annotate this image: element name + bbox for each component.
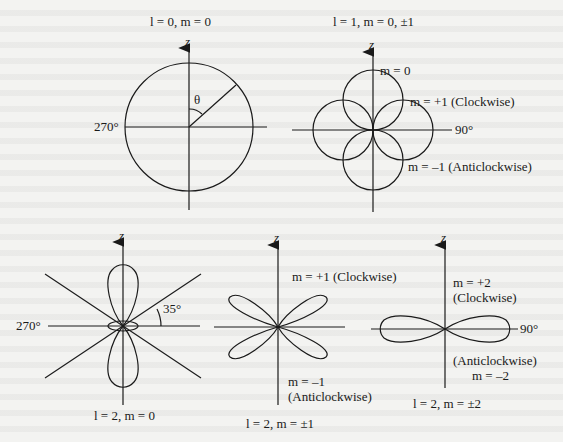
z-axis-label: z: [440, 230, 446, 245]
caption-l1: l = 1, m = 0, ±1: [333, 14, 414, 29]
lobe-lower-left: [229, 327, 278, 359]
diagram-l2-m0: z 35° 270° l = 2, m = 0: [16, 228, 201, 423]
lobe-upper-left: [229, 295, 278, 327]
z-axis-label: z: [184, 34, 190, 49]
angle-90-label: 90°: [520, 321, 538, 336]
caption-l2-m0: l = 2, m = 0: [94, 408, 155, 423]
label-m-minus2: m = –2: [472, 368, 509, 383]
theta-arc: [189, 109, 202, 114]
angle-35-label: 35°: [163, 301, 181, 316]
diagram-l0: l = 0, m = 0 z θ 270°: [94, 14, 267, 210]
diagram-l2-m1: z m = +1 (Clockwise) m = –1 (Anticlockwi…: [214, 230, 397, 431]
z-axis-label: z: [118, 228, 124, 243]
angle-90-label: 90°: [455, 122, 473, 137]
label-anticlockwise: (Anticlockwise): [453, 353, 537, 368]
label-m-minus1: m = –1 (Anticlockwise): [408, 159, 532, 174]
lobe-upper-right: [278, 295, 327, 327]
angle-270-label: 270°: [94, 119, 119, 134]
angle-270-label: 270°: [16, 318, 41, 333]
lobe-lower-right: [278, 327, 327, 359]
label-clockwise: (Clockwise): [453, 290, 517, 305]
polar-diagrams-figure: l = 0, m = 0 z θ 270° l = 1, m = 0, ±1 z…: [0, 0, 563, 442]
label-anticlockwise: (Anticlockwise): [288, 389, 372, 404]
diagram-l1: l = 1, m = 0, ±1 z m = 0 m = +1 (Clockwi…: [292, 14, 532, 212]
label-m0: m = 0: [380, 63, 410, 78]
caption-l2-m2: l = 2, m = ±2: [413, 396, 481, 411]
diagram-l2-m2: z m = +2 (Clockwise) 90° (Anticlockwise)…: [371, 230, 538, 411]
z-axis-label: z: [368, 37, 374, 52]
label-m-minus1: m = –1: [288, 374, 325, 389]
caption-l2-m1: l = 2, m = ±1: [246, 416, 314, 431]
angle-35-arc: [157, 309, 161, 326]
label-m-plus1: m = +1 (Clockwise): [410, 94, 515, 109]
label-m-plus2: m = +2: [453, 275, 491, 290]
caption-l0: l = 0, m = 0: [150, 14, 211, 29]
label-m-plus1: m = +1 (Clockwise): [292, 269, 397, 284]
z-axis-label: z: [273, 230, 279, 245]
theta-label: θ: [194, 92, 200, 107]
